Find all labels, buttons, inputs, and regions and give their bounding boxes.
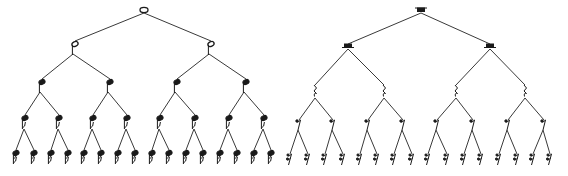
tree-edge [436, 130, 447, 154]
whole-note-icon [140, 7, 148, 12]
tree-edge [58, 129, 68, 150]
tree-edge [298, 130, 308, 154]
tree-edge [421, 13, 490, 44]
tree-edge [175, 92, 195, 115]
eighth-rest-icon [296, 120, 301, 130]
tree-edge [51, 129, 58, 150]
tree-edge [92, 129, 101, 150]
tree-edge [229, 92, 244, 115]
sixteenth-note-icon [12, 150, 20, 164]
tree-edge [348, 13, 421, 44]
sixteenth-note-icon [148, 150, 156, 164]
quarter-rest-icon [383, 85, 386, 97]
tree-edge [428, 130, 436, 154]
sixteenth-note-icon [199, 150, 207, 164]
sixteenth-rest-icon [424, 154, 429, 165]
sixteenth-note-icon [80, 150, 88, 164]
tree-edge [159, 129, 169, 150]
tree-edge [75, 13, 144, 41]
tree-edge [25, 92, 40, 115]
tree-edge [508, 98, 525, 120]
tree-edge [144, 13, 211, 41]
eighth-note-icon [191, 115, 199, 129]
sixteenth-note-icon [216, 150, 224, 164]
eighth-rest-icon [541, 120, 546, 130]
tree-edge [332, 130, 343, 154]
tree-edge [40, 92, 59, 115]
tree-nodes [12, 7, 551, 165]
tree-edge [533, 130, 543, 154]
quarter-rest-icon [524, 85, 527, 97]
eighth-note-icon [225, 115, 233, 129]
tree-edge [507, 130, 517, 154]
sixteenth-note-icon [114, 150, 122, 164]
sixteenth-rest-icon [408, 154, 413, 165]
tree-edge [368, 98, 384, 120]
eighth-note-icon [55, 115, 63, 129]
sixteenth-note-icon [182, 150, 190, 164]
quarter-rest-icon [314, 85, 317, 97]
tree-edge [186, 129, 194, 150]
quarter-note-icon [106, 79, 114, 93]
sixteenth-note-icon [233, 150, 241, 164]
tree-edge [244, 92, 264, 115]
tree-edge [348, 49, 384, 85]
tree-edge [220, 129, 228, 150]
tree-edge [290, 130, 298, 154]
half-note-icon [207, 41, 215, 55]
sixteenth-rest-icon [529, 154, 534, 165]
quarter-note-icon [38, 79, 46, 93]
tree-edge [108, 92, 127, 115]
tree-edge [472, 130, 481, 154]
tree-edge [456, 49, 490, 85]
sixteenth-rest-icon [339, 154, 344, 165]
tree-edge [73, 54, 110, 79]
tree-edge [160, 92, 175, 115]
tree-edge [367, 130, 377, 154]
tree-edge [263, 129, 271, 150]
half-note-icon [71, 41, 79, 55]
sixteenth-note-icon [165, 150, 173, 164]
sixteenth-rest-icon [460, 154, 465, 165]
tree-edge [499, 130, 507, 154]
sixteenth-note-icon [30, 150, 38, 164]
sixteenth-rest-icon [286, 154, 291, 165]
tree-edge [84, 129, 92, 150]
sixteenth-note-icon [47, 150, 55, 164]
quarter-note-icon [173, 79, 181, 93]
sixteenth-note-icon [250, 150, 258, 164]
tree-edge [16, 129, 24, 150]
eighth-rest-icon [434, 120, 439, 130]
sixteenth-rest-icon [304, 154, 309, 165]
tree-edge [315, 49, 348, 85]
tree-edge [402, 130, 412, 154]
eighth-rest-icon [470, 120, 475, 130]
tree-edge [360, 130, 367, 154]
whole-rest-icon [415, 8, 427, 12]
tree-edge [543, 130, 550, 154]
sixteenth-rest-icon [495, 154, 500, 165]
tree-edge [254, 129, 263, 150]
tree-edge [456, 98, 473, 120]
eighth-rest-icon [330, 120, 335, 130]
half-rest-icon [342, 44, 354, 48]
eighth-note-icon [156, 115, 164, 129]
sixteenth-note-icon [267, 150, 275, 164]
tree-edge [126, 129, 135, 150]
eighth-rest-icon [505, 120, 510, 130]
tree-edge [490, 49, 525, 85]
sixteenth-rest-icon [390, 154, 395, 165]
note-values-tree [12, 7, 275, 164]
tree-edge [299, 98, 315, 120]
eighth-note-icon [260, 115, 268, 129]
tree-edge [194, 129, 203, 150]
eighth-note-icon [123, 115, 131, 129]
tree-edge [118, 129, 126, 150]
sixteenth-note-icon [64, 150, 72, 164]
tree-edge [42, 54, 73, 79]
tree-edge [152, 129, 159, 150]
sixteenth-rest-icon [477, 154, 482, 165]
sixteenth-rest-icon [373, 154, 378, 165]
tree-edge [315, 98, 333, 120]
eighth-rest-icon [365, 120, 370, 130]
